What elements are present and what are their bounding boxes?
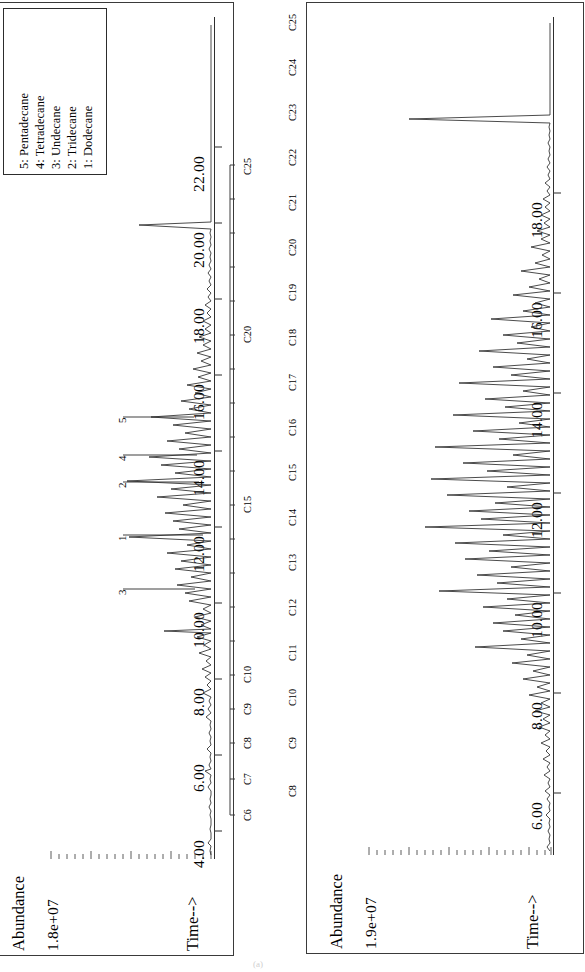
panel-b-carbon-label-c20: C20 [288, 239, 298, 256]
panel-a-carbon-label-c7: C7 [243, 773, 253, 785]
chromatogram-panel-a: 1: Dodecane 2: Tridecane 3: Undecane 4: … [0, 2, 234, 956]
panel-b-carbon-label-c24: C24 [288, 59, 298, 76]
panel-b-carbon-label-c13: C13 [288, 554, 298, 571]
panel-a-carbon-label-c15: C15 [243, 496, 253, 513]
panel-b-carbon-label-c12: C12 [288, 599, 298, 616]
panel-b-carbon-ruler [307, 3, 585, 955]
chromatogram-panel-b: Abundance 1.9e+07 Time--> [306, 2, 584, 954]
panel-b-carbon-label-c19: C19 [288, 284, 298, 301]
panel-b-carbon-label-c9: C9 [288, 737, 298, 749]
panel-b-carbon-label-c8: C8 [288, 785, 298, 797]
panel-b-carbon-label-c11: C11 [288, 644, 298, 661]
panel-b-carbon-label-c22: C22 [288, 149, 298, 166]
panel-a-carbon-label-c25: C25 [243, 158, 253, 175]
panel-a-carbon-ruler [0, 3, 235, 957]
panel-b-carbon-label-c17: C17 [288, 374, 298, 391]
panel-a-carbon-label-c6: C6 [243, 809, 253, 821]
panel-a-carbon-label-c10: C10 [243, 666, 253, 683]
panel-b-carbon-label-c10: C10 [288, 689, 298, 706]
panel-b-carbon-label-c16: C16 [288, 419, 298, 436]
panel-b-carbon-label-c23: C23 [288, 104, 298, 121]
panel-b-carbon-label-c25: C25 [288, 14, 298, 31]
panel-a-carbon-label-c9: C9 [243, 703, 253, 715]
panel-a-carbon-label-c8: C8 [243, 737, 253, 749]
panel-b-carbon-label-c21: C21 [288, 194, 298, 211]
figure-caption-marker: (a) [253, 959, 263, 969]
panel-b-carbon-label-c18: C18 [288, 329, 298, 346]
panel-b-carbon-label-c14: C14 [288, 509, 298, 526]
panel-a-carbon-label-c20: C20 [243, 326, 253, 343]
panel-b-carbon-label-c15: C15 [288, 464, 298, 481]
